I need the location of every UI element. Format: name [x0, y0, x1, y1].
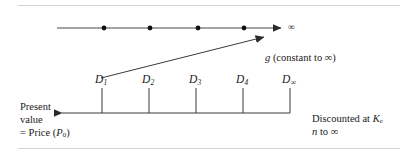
- price-prefix: = Price (: [20, 127, 56, 138]
- dividend-ticks: [102, 88, 290, 113]
- growth-rate-text: (constant to ∞): [270, 52, 336, 63]
- dividend-label-1: D1: [95, 72, 107, 87]
- present-value-note: Present value = Price (P0): [20, 101, 70, 140]
- dividend-subscript-4: 4: [244, 78, 248, 87]
- discount-note: Discounted at Ke n to ∞: [312, 113, 383, 139]
- present-value-line3: = Price (P0): [20, 127, 70, 140]
- timeline-dot: [196, 26, 201, 31]
- dividend-label-4: D4: [236, 72, 248, 87]
- timeline-dot: [242, 26, 247, 31]
- timeline-dot: [148, 26, 153, 31]
- dividend-subscript-3: 3: [197, 78, 201, 87]
- timeline-dot: [102, 26, 107, 31]
- growth-rate-note: g (constant to ∞): [265, 52, 336, 65]
- dividend-label-3: D3: [189, 72, 201, 87]
- dividend-subscript-1: 1: [103, 78, 107, 87]
- dividend-subscript-infinity: ∞: [290, 78, 296, 87]
- discount-rate-variable: K: [373, 113, 380, 124]
- top-timeline-infinity-label: ∞: [288, 22, 295, 34]
- dividend-label-2: D2: [142, 72, 154, 87]
- dividend-label-infinity: D∞: [282, 72, 296, 87]
- price-suffix: ): [66, 127, 70, 138]
- discount-prefix: Discounted at: [312, 113, 373, 124]
- figure-root: ∞ g (constant to ∞) D1 D2 D3 D4 D∞ Prese…: [0, 0, 412, 157]
- top-timeline-axis: [57, 26, 281, 31]
- present-value-line2: value: [20, 114, 70, 127]
- discount-line2: n to ∞: [312, 126, 383, 139]
- discount-line1: Discounted at Ke: [312, 113, 383, 126]
- discount-rate-subscript: e: [380, 117, 383, 125]
- present-value-line1: Present: [20, 101, 70, 114]
- dividend-subscript-2: 2: [150, 78, 154, 87]
- period-range: to ∞: [317, 126, 338, 137]
